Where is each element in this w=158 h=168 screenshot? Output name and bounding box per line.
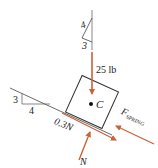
weight-label: 25 lb — [96, 64, 116, 75]
normal-force-label: N — [79, 156, 88, 167]
free-body-diagram: 4 3 3 4 25 lb C FSPRING 0.3N N — [0, 0, 158, 168]
spring-force-arrow — [116, 126, 154, 144]
slope-triangle-run: 4 — [29, 105, 34, 116]
center-point — [89, 102, 93, 106]
reference-triangle-hyp: 4 — [79, 19, 87, 31]
center-label: C — [96, 98, 104, 110]
reference-triangle-leg: 3 — [81, 40, 87, 51]
slope-triangle-rise: 3 — [13, 94, 18, 105]
spring-force-label: FSPRING — [118, 105, 147, 127]
